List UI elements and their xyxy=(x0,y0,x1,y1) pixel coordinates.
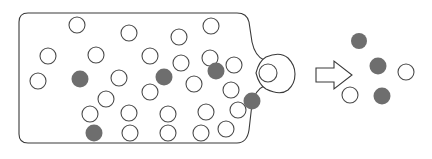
particle-open xyxy=(198,104,214,120)
particle-open xyxy=(171,29,187,45)
particle-open xyxy=(82,106,98,122)
container-body-outline xyxy=(19,13,272,143)
particle-open xyxy=(398,64,414,80)
particle-open xyxy=(40,48,56,64)
particle-open xyxy=(122,125,138,141)
particle-filled xyxy=(72,71,89,88)
effusion-diagram xyxy=(0,0,432,159)
particle-filled xyxy=(351,33,367,49)
particle-open xyxy=(193,125,209,141)
diagram-canvas xyxy=(0,0,432,159)
particle-open xyxy=(121,25,137,41)
particle-open xyxy=(230,102,246,118)
nozzle-orifice-particle xyxy=(259,64,277,82)
particle-open xyxy=(186,76,202,92)
particle-open xyxy=(30,73,46,89)
particle-open xyxy=(226,57,242,73)
particle-open xyxy=(342,87,358,103)
particle-open xyxy=(142,48,158,64)
particle-open xyxy=(223,82,239,98)
particle-open xyxy=(160,125,176,141)
particle-filled xyxy=(374,88,391,105)
particle-filled xyxy=(208,63,225,80)
particle-open xyxy=(88,47,104,63)
particle-filled xyxy=(244,93,261,110)
particle-filled xyxy=(86,125,103,142)
particle-filled xyxy=(156,69,173,86)
particle-open xyxy=(111,70,127,86)
particle-open xyxy=(121,105,137,121)
particle-open xyxy=(69,17,85,33)
particle-open xyxy=(173,55,189,71)
particle-filled xyxy=(370,58,387,75)
particle-open xyxy=(160,106,176,122)
particle-open xyxy=(203,18,219,34)
particles-escaped-group xyxy=(342,33,414,105)
particle-open xyxy=(98,91,114,107)
particle-open xyxy=(142,84,158,100)
particle-open xyxy=(218,121,234,137)
effusion-direction-arrow xyxy=(316,61,352,89)
